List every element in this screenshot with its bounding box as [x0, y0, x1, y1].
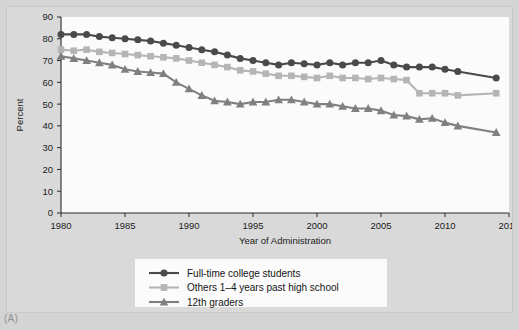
- x-tick-label: 1990: [178, 220, 199, 231]
- square-marker: [147, 53, 154, 60]
- circle-marker: [442, 66, 449, 73]
- circle-marker: [147, 37, 154, 44]
- square-marker: [288, 73, 295, 80]
- circle-marker: [403, 64, 410, 71]
- square-marker: [135, 52, 142, 59]
- circle-marker: [262, 59, 269, 66]
- circle-marker: [96, 33, 103, 40]
- square-marker: [122, 51, 129, 58]
- figure-container: 0102030405060708090 19801985199019952000…: [0, 0, 519, 330]
- square-marker: [442, 90, 449, 97]
- circle-marker: [301, 60, 308, 67]
- circle-marker: [134, 36, 141, 43]
- square-marker: [109, 50, 116, 57]
- x-axis-ticks: 19801985199019952000200520102015: [50, 213, 512, 231]
- circle-marker: [288, 59, 295, 66]
- y-tick-label: 80: [42, 33, 53, 44]
- circle-marker: [378, 57, 385, 64]
- square-marker: [301, 74, 308, 81]
- square-marker: [186, 57, 193, 64]
- square-marker: [263, 70, 270, 77]
- legend-label: Full-time college students: [187, 268, 300, 279]
- circle-marker: [314, 61, 321, 68]
- circle-marker: [416, 64, 423, 71]
- x-tick-label: 1985: [114, 220, 135, 231]
- circle-marker: [109, 34, 116, 41]
- legend-label: 12th graders: [187, 297, 243, 308]
- square-marker: [199, 59, 206, 66]
- circle-marker: [58, 31, 65, 38]
- circle-marker: [454, 68, 461, 75]
- x-tick-label: 2010: [434, 220, 455, 231]
- plot-area-background: [61, 17, 509, 213]
- square-marker: [96, 49, 103, 56]
- square-marker: [339, 75, 346, 82]
- square-marker: [455, 92, 462, 99]
- circle-marker: [339, 61, 346, 68]
- circle-marker: [186, 44, 193, 51]
- circle-marker: [122, 35, 129, 42]
- y-tick-label: 90: [42, 11, 53, 22]
- circle-marker: [70, 31, 77, 38]
- circle-marker: [493, 74, 500, 81]
- x-axis-title: Year of Administration: [239, 235, 331, 246]
- x-tick-label: 2000: [306, 220, 327, 231]
- square-marker: [224, 64, 231, 71]
- y-tick-label: 0: [48, 207, 53, 218]
- square-marker: [403, 77, 410, 84]
- circle-marker: [198, 46, 205, 53]
- square-marker: [314, 75, 321, 82]
- square-marker: [211, 62, 218, 69]
- circle-marker: [275, 61, 282, 68]
- circle-marker: [173, 42, 180, 49]
- square-marker: [83, 46, 90, 53]
- circle-marker: [390, 61, 397, 68]
- circle-marker: [224, 52, 231, 59]
- chart-legend: Full-time college studentsOthers 1–4 yea…: [135, 259, 387, 308]
- x-tick-label: 1995: [242, 220, 263, 231]
- circle-marker: [237, 55, 244, 62]
- circle-marker: [429, 64, 436, 71]
- square-marker: [429, 90, 436, 97]
- chart-card: 0102030405060708090 19801985199019952000…: [6, 6, 513, 313]
- square-marker: [391, 76, 398, 83]
- square-marker: [160, 54, 167, 61]
- circle-marker: [160, 40, 167, 47]
- y-tick-label: 10: [42, 186, 53, 197]
- square-marker: [71, 47, 78, 54]
- circle-marker: [160, 269, 167, 276]
- x-tick-label: 2005: [370, 220, 391, 231]
- legend-label: Others 1–4 years past high school: [187, 282, 339, 293]
- square-marker: [250, 68, 257, 75]
- y-axis-ticks: 0102030405060708090: [42, 11, 61, 218]
- x-tick-label: 1980: [50, 220, 71, 231]
- y-tick-label: 50: [42, 99, 53, 110]
- circle-marker: [352, 59, 359, 66]
- circle-marker: [83, 31, 90, 38]
- square-marker: [493, 90, 500, 97]
- square-marker: [237, 67, 244, 74]
- square-marker: [416, 90, 423, 97]
- line-chart: 0102030405060708090 19801985199019952000…: [7, 7, 512, 312]
- x-tick-label: 2015: [498, 220, 512, 231]
- square-marker: [365, 76, 372, 83]
- y-tick-label: 20: [42, 164, 53, 175]
- y-tick-label: 60: [42, 77, 53, 88]
- y-tick-label: 40: [42, 120, 53, 131]
- square-marker: [173, 55, 180, 62]
- circle-marker: [250, 57, 257, 64]
- square-marker: [327, 73, 334, 80]
- square-marker: [275, 73, 282, 80]
- panel-label: (A): [4, 313, 18, 324]
- square-marker: [352, 75, 359, 82]
- circle-marker: [365, 59, 372, 66]
- y-tick-label: 30: [42, 142, 53, 153]
- square-marker: [161, 284, 168, 291]
- square-marker: [378, 75, 385, 82]
- y-tick-label: 70: [42, 55, 53, 66]
- circle-marker: [211, 48, 218, 55]
- y-axis-title: Percent: [14, 98, 25, 131]
- circle-marker: [326, 59, 333, 66]
